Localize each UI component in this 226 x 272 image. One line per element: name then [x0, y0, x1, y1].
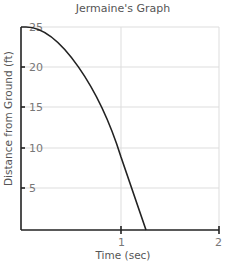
- distance-curve: [21, 27, 146, 230]
- axes: [21, 27, 219, 234]
- y-tick-10: 10: [29, 142, 43, 155]
- y-tick-labels: 25 20 15 10 5: [29, 21, 43, 195]
- grid-lines: [21, 27, 219, 230]
- x-tick-1: 1: [118, 236, 125, 249]
- plot-area: 25 20 15 10 5 1 2: [0, 0, 226, 272]
- y-tick-20: 20: [29, 61, 43, 74]
- x-tick-labels: 1 2: [118, 236, 222, 249]
- y-tick-5: 5: [29, 182, 36, 195]
- x-tick-2: 2: [215, 236, 222, 249]
- y-tick-15: 15: [29, 101, 43, 114]
